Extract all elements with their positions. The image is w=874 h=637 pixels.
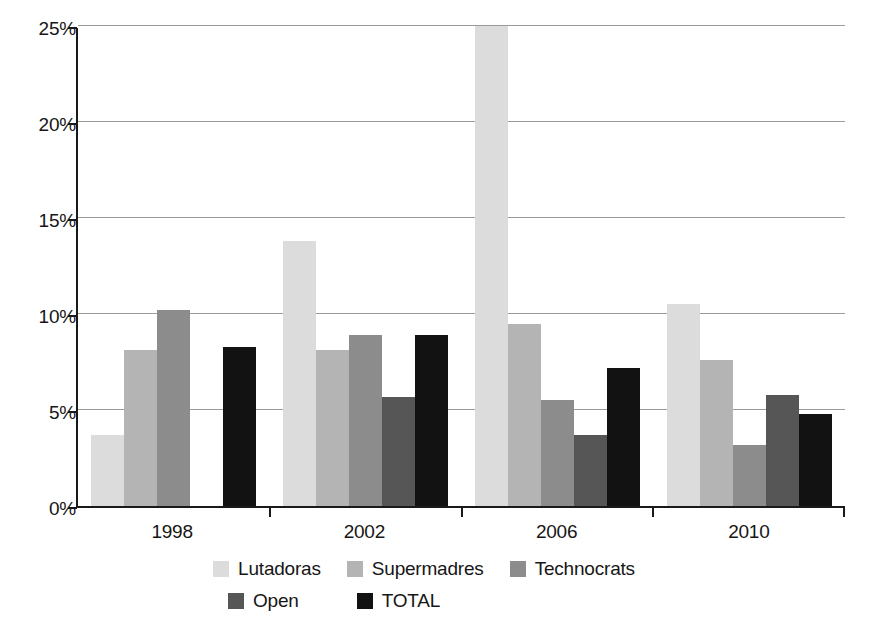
bar-total-2006[interactable] bbox=[607, 368, 640, 506]
bar-group-2010 bbox=[653, 28, 845, 506]
bar-group-1998 bbox=[78, 28, 270, 506]
bar-slot bbox=[667, 28, 700, 506]
legend-swatch-icon bbox=[228, 593, 244, 609]
bar-group-2006 bbox=[462, 28, 654, 506]
legend-item-supermadres[interactable]: Supermadres bbox=[347, 559, 484, 579]
x-axis-separator bbox=[461, 506, 463, 517]
legend-item-open[interactable]: Open bbox=[228, 591, 299, 611]
y-axis: 25% 20% 15% 10% 5% 0% bbox=[0, 0, 76, 637]
bar-lutadoras-2002[interactable] bbox=[283, 241, 316, 506]
legend-row-1: Lutadoras Supermadres Technocrats bbox=[0, 553, 874, 585]
bar-lutadoras-2006[interactable] bbox=[475, 26, 508, 506]
bar-total-1998[interactable] bbox=[223, 347, 256, 506]
bar-slot bbox=[700, 28, 733, 506]
bar-open-2010[interactable] bbox=[766, 395, 799, 506]
bar-lutadoras-2010[interactable] bbox=[667, 304, 700, 506]
bar-slot bbox=[508, 28, 541, 506]
bar-technocrats-2006[interactable] bbox=[541, 400, 574, 506]
legend-item-lutadoras[interactable]: Lutadoras bbox=[213, 559, 321, 579]
legend-label: Supermadres bbox=[372, 559, 484, 579]
bar-open-2002[interactable] bbox=[382, 397, 415, 506]
legend-swatch-icon bbox=[213, 561, 229, 577]
bar-slot bbox=[475, 28, 508, 506]
bar-supermadres-2002[interactable] bbox=[316, 350, 349, 506]
bar-slot bbox=[223, 28, 256, 506]
bar-slot bbox=[733, 28, 766, 506]
bar-groups bbox=[78, 28, 845, 506]
bar-slot bbox=[349, 28, 382, 506]
bar-open-2006[interactable] bbox=[574, 435, 607, 506]
gridline bbox=[78, 25, 845, 26]
x-axis: 1998 2002 2006 2010 bbox=[76, 520, 845, 550]
x-axis-separator bbox=[269, 506, 271, 517]
bar-slot bbox=[766, 28, 799, 506]
bar-technocrats-2002[interactable] bbox=[349, 335, 382, 506]
bar-slot bbox=[316, 28, 349, 506]
bar-group-2002 bbox=[270, 28, 462, 506]
bar-technocrats-2010[interactable] bbox=[733, 445, 766, 506]
legend-label: TOTAL bbox=[382, 591, 440, 611]
bar-slot bbox=[541, 28, 574, 506]
legend-item-technocrats[interactable]: Technocrats bbox=[510, 559, 635, 579]
legend: Lutadoras Supermadres Technocrats Open T… bbox=[0, 553, 874, 617]
plot-area bbox=[76, 28, 845, 508]
bar-slot bbox=[415, 28, 448, 506]
x-axis-end-tick bbox=[843, 506, 845, 517]
x-axis-separator bbox=[652, 506, 654, 517]
legend-label: Technocrats bbox=[535, 559, 635, 579]
bar-total-2002[interactable] bbox=[415, 335, 448, 506]
x-tick-label-1998: 1998 bbox=[76, 520, 268, 550]
legend-row-2: Open TOTAL bbox=[0, 585, 874, 617]
bar-slot bbox=[91, 28, 124, 506]
bar-supermadres-1998[interactable] bbox=[124, 350, 157, 506]
bar-slot bbox=[799, 28, 832, 506]
legend-item-total[interactable]: TOTAL bbox=[357, 591, 440, 611]
bar-slot bbox=[382, 28, 415, 506]
legend-label: Lutadoras bbox=[238, 559, 321, 579]
bar-slot bbox=[190, 28, 223, 506]
x-tick-label-2006: 2006 bbox=[461, 520, 653, 550]
bar-slot bbox=[283, 28, 316, 506]
bar-slot bbox=[157, 28, 190, 506]
bar-total-2010[interactable] bbox=[799, 414, 832, 506]
bar-slot bbox=[607, 28, 640, 506]
x-tick-label-2010: 2010 bbox=[653, 520, 845, 550]
legend-swatch-icon bbox=[357, 593, 373, 609]
x-tick-label-2002: 2002 bbox=[268, 520, 460, 550]
bar-slot bbox=[574, 28, 607, 506]
legend-swatch-icon bbox=[347, 561, 363, 577]
bar-lutadoras-1998[interactable] bbox=[91, 435, 124, 506]
bar-supermadres-2010[interactable] bbox=[700, 360, 733, 506]
legend-swatch-icon bbox=[510, 561, 526, 577]
bar-slot bbox=[124, 28, 157, 506]
bar-chart: 25% 20% 15% 10% 5% 0% 1998 2002 2006 201… bbox=[0, 0, 874, 637]
legend-label: Open bbox=[253, 591, 299, 611]
bar-supermadres-2006[interactable] bbox=[508, 324, 541, 506]
bar-technocrats-1998[interactable] bbox=[157, 310, 190, 506]
